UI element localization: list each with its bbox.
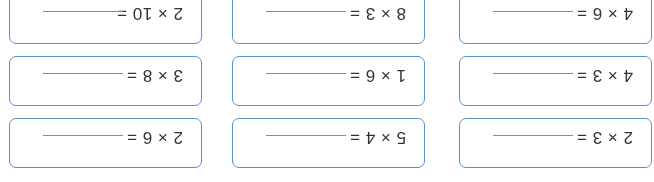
problem-card: 2 × 3 = xyxy=(459,118,652,168)
problem-expression: 3 × 8 = xyxy=(127,65,183,85)
problem-expression: 1 × 6 = xyxy=(350,65,406,85)
answer-line[interactable] xyxy=(493,73,573,74)
problem-expression: 2 × 3 = xyxy=(577,127,633,147)
problem-card: 4 × 6 = xyxy=(459,0,652,44)
answer-line[interactable] xyxy=(43,135,123,136)
problem-expression: 2 × 10 = xyxy=(117,3,183,23)
worksheet: 2 × 3 = 5 × 4 = 2 × 6 = 4 × 3 = 1 × 6 = … xyxy=(0,0,654,182)
problem-expression: 4 × 3 = xyxy=(577,65,633,85)
answer-line[interactable] xyxy=(493,135,573,136)
problem-card: 2 × 10 = xyxy=(9,0,202,44)
problem-expression: 5 × 4 = xyxy=(350,127,406,147)
answer-line[interactable] xyxy=(43,11,123,12)
problem-card: 3 × 8 = xyxy=(9,56,202,106)
problem-expression: 8 × 3 = xyxy=(350,3,406,23)
answer-line[interactable] xyxy=(493,11,573,12)
problem-card: 4 × 3 = xyxy=(459,56,652,106)
problem-card: 8 × 3 = xyxy=(232,0,425,44)
answer-line[interactable] xyxy=(266,73,346,74)
problem-card: 2 × 6 = xyxy=(9,118,202,168)
answer-line[interactable] xyxy=(266,11,346,12)
answer-line[interactable] xyxy=(266,135,346,136)
problem-expression: 4 × 6 = xyxy=(577,3,633,23)
problem-card: 1 × 6 = xyxy=(232,56,425,106)
problem-expression: 2 × 6 = xyxy=(127,127,183,147)
answer-line[interactable] xyxy=(43,73,123,74)
problem-card: 5 × 4 = xyxy=(232,118,425,168)
